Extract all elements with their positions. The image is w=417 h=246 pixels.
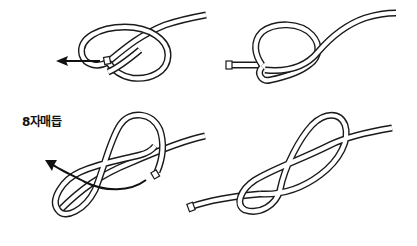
panel-step-4 [187,115,392,212]
panel-step-2 [226,13,396,80]
knot-illustrations [0,0,417,246]
rope-end [226,61,232,69]
panel-step-1 [56,15,206,78]
panel-step-3 [45,115,205,214]
rope-end [104,57,111,65]
